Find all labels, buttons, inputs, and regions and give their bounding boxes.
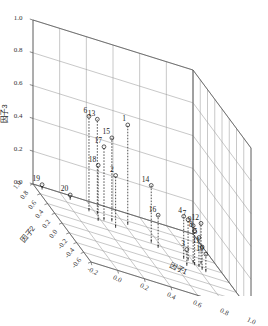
- z-tick-0.6: 0.6: [14, 79, 23, 87]
- z-tick-1.0: 1.0: [14, 14, 23, 22]
- point-label-20: 20: [61, 184, 69, 193]
- z-tick-0.4: 0.4: [14, 112, 23, 120]
- point-label-11: 11: [193, 236, 200, 245]
- z-axis-title: 因子3: [0, 104, 9, 122]
- point-label-6: 6: [83, 106, 87, 115]
- point-label-13: 13: [88, 109, 96, 118]
- point-label-16: 16: [149, 205, 157, 214]
- point-label-19: 19: [33, 174, 41, 183]
- point-label-18: 18: [89, 155, 97, 164]
- point-label-3: 3: [181, 239, 185, 248]
- x-tick-1.0: 1.0: [245, 315, 256, 326]
- z-tick-0.2: 0.2: [14, 145, 23, 153]
- point-label-14: 14: [142, 175, 150, 184]
- point-label-17: 17: [94, 136, 102, 145]
- point-label-15: 15: [102, 127, 110, 136]
- point-label-12: 12: [192, 213, 200, 222]
- x-tick-0.8: 0.8: [219, 307, 230, 318]
- point-label-5: 5: [193, 227, 197, 236]
- point-label-2: 2: [110, 165, 114, 174]
- point-label-4: 4: [178, 206, 182, 215]
- point-label-7: 7: [183, 209, 187, 218]
- point-label-1: 1: [122, 114, 126, 123]
- x-tick-0.6: 0.6: [192, 299, 203, 310]
- z-tick-0.8: 0.8: [14, 46, 23, 54]
